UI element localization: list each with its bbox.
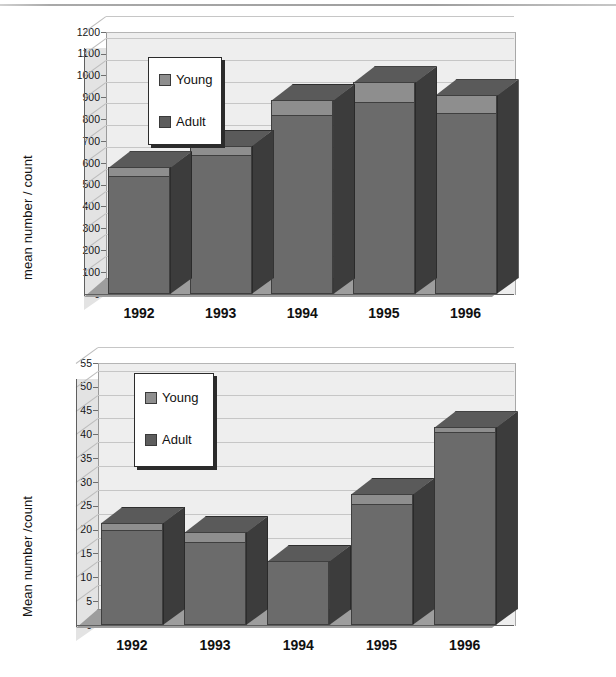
y-tick-label: 700 <box>40 136 100 147</box>
tick-mark <box>101 185 106 186</box>
top-chart-panel: 0100200300400500600700800900100011001200… <box>0 10 616 340</box>
legend-label-adult: Adult <box>162 432 192 447</box>
x-tick-label-1994: 1994 <box>262 305 344 321</box>
bar-segment-adult <box>434 432 496 625</box>
x-tick-label-1995: 1995 <box>343 305 425 321</box>
y-tick-label: 35 <box>32 453 92 464</box>
bar-1993 <box>184 516 246 625</box>
bar-segment-adult <box>351 504 413 625</box>
tick-mark <box>101 272 106 273</box>
legend-label-adult: Adult <box>176 114 206 129</box>
bar-segment-adult <box>190 155 252 294</box>
tick-mark <box>101 141 106 142</box>
bar-side-face <box>252 130 274 294</box>
bar-side-face <box>415 66 437 294</box>
bar-segment-young <box>108 167 170 176</box>
bar-segment-young <box>190 146 252 156</box>
bar-segment-young <box>101 523 163 530</box>
tick-mark <box>101 54 106 55</box>
bar-segment-young <box>351 494 413 504</box>
bar-side-face <box>246 516 268 625</box>
tick-mark <box>101 75 106 76</box>
bar-1996 <box>435 79 497 294</box>
bar-segment-adult <box>435 113 497 294</box>
y-tick-label: 200 <box>40 245 100 256</box>
y-tick-label: 800 <box>40 114 100 125</box>
tick-mark <box>93 577 98 578</box>
bar-1993 <box>190 130 252 294</box>
tick-mark <box>101 206 106 207</box>
tick-mark <box>93 553 98 554</box>
legend-item-young: Young <box>145 390 198 405</box>
tick-mark <box>93 410 98 411</box>
gridline <box>98 347 514 348</box>
tick-mark <box>93 530 98 531</box>
x-tick-label-1996: 1996 <box>423 637 506 653</box>
y-axis-title: mean number / count <box>20 155 35 280</box>
bar-1992 <box>101 507 163 625</box>
legend-item-young: Young <box>159 72 212 87</box>
x-tick-label-1996: 1996 <box>425 305 507 321</box>
chart-legend: YoungAdult <box>134 373 214 467</box>
y-tick-label: 5 <box>32 596 92 607</box>
legend-item-adult: Adult <box>145 432 192 447</box>
y-axis-line <box>84 48 85 296</box>
legend-swatch-adult <box>145 434 157 446</box>
legend-swatch-young <box>145 392 157 404</box>
gridline <box>98 371 514 372</box>
y-axis-line <box>76 379 77 627</box>
x-tick-label-1992: 1992 <box>98 305 180 321</box>
bottom-chart-panel: 0510152025303540455055Mean number /count… <box>0 345 616 675</box>
bar-1994 <box>267 545 329 625</box>
bar-segment-young <box>353 82 415 102</box>
tick-mark <box>93 506 98 507</box>
bar-1995 <box>353 66 415 294</box>
tick-mark <box>101 163 106 164</box>
y-tick-label: 30 <box>32 477 92 488</box>
x-tick-label-1992: 1992 <box>90 637 173 653</box>
y-tick-label: 40 <box>32 429 92 440</box>
bar-side-face <box>170 151 192 294</box>
bar-side-face <box>163 507 185 625</box>
y-tick-label: 600 <box>40 158 100 169</box>
tick-mark <box>101 32 106 33</box>
y-axis-title: Mean number /count <box>20 496 35 617</box>
bar-1996 <box>434 411 496 625</box>
x-axis-line <box>84 294 514 295</box>
y-tick-label: 10 <box>32 572 92 583</box>
legend-label-young: Young <box>176 72 212 87</box>
legend-swatch-adult <box>159 116 171 128</box>
x-tick-label-1993: 1993 <box>174 637 257 653</box>
tick-mark <box>93 387 98 388</box>
tick-mark <box>101 228 106 229</box>
legend-swatch-young <box>159 74 171 86</box>
bar-1994 <box>271 84 333 294</box>
tick-mark <box>93 434 98 435</box>
tick-mark <box>93 482 98 483</box>
bar-side-face <box>496 411 518 625</box>
bar-segment-young <box>271 100 333 115</box>
bar-segment-adult <box>184 542 246 625</box>
tick-mark <box>93 363 98 364</box>
y-tick-label: 100 <box>40 267 100 278</box>
figure-page: 0100200300400500600700800900100011001200… <box>0 0 616 677</box>
gridline <box>106 38 514 39</box>
page-top-rule <box>0 4 616 6</box>
legend-item-adult: Adult <box>159 114 206 129</box>
bar-segment-young <box>435 95 497 112</box>
bar-side-face <box>413 478 435 625</box>
tick-mark <box>93 601 98 602</box>
bar-segment-young <box>184 532 246 542</box>
tick-mark <box>93 458 98 459</box>
bar-segment-adult <box>353 102 415 294</box>
y-tick-label: 55 <box>32 358 92 369</box>
bar-1992 <box>108 151 170 294</box>
legend-label-young: Young <box>162 390 198 405</box>
x-tick-label-1994: 1994 <box>257 637 340 653</box>
chart-legend: YoungAdult <box>148 57 222 145</box>
bar-1995 <box>351 478 413 625</box>
x-axis-line <box>76 625 514 626</box>
tick-mark <box>101 250 106 251</box>
y-tick-label: 1200 <box>40 27 100 38</box>
bar-side-face <box>497 79 519 294</box>
